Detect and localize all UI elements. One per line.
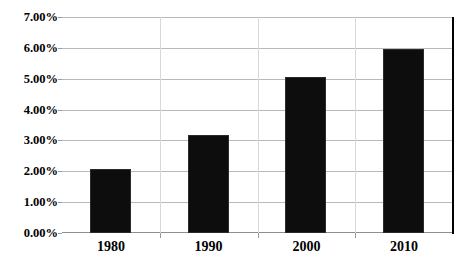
y-tick-label-4: 4.00% [0,103,58,116]
y-tick-label-3: 3.00% [0,134,58,147]
category-separator-2 [258,17,259,233]
y-tick-label-2: 2.00% [0,165,58,178]
y-tick-label-5: 5.00% [0,72,58,85]
y-tick-mark-0 [58,233,62,234]
category-separator-1 [160,17,161,233]
y-tick-label-6: 6.00% [0,42,58,55]
y-tick-label-1: 1.00% [0,196,58,209]
bar-2010 [383,49,424,233]
bar-1990 [188,135,229,233]
x-tick-label-1990: 1990 [195,238,223,256]
bar-chart: 7.00% 6.00% 5.00% 4.00% 3.00% 2.00% 1.00… [0,0,459,269]
y-axis: 7.00% 6.00% 5.00% 4.00% 3.00% 2.00% 1.00… [0,0,58,269]
y-tick-label-7: 7.00% [0,11,58,24]
plot-area [62,17,453,233]
x-axis: 1980 1990 2000 2010 [62,238,453,264]
y-tick-label-0: 0.00% [0,227,58,240]
bar-1980 [90,169,131,233]
plot-right-border [452,17,454,234]
category-separator-3 [355,17,356,233]
x-tick-label-1980: 1980 [97,238,125,256]
bar-2000 [285,77,326,233]
x-tick-label-2010: 2010 [390,238,418,256]
x-tick-label-2000: 2000 [292,238,320,256]
